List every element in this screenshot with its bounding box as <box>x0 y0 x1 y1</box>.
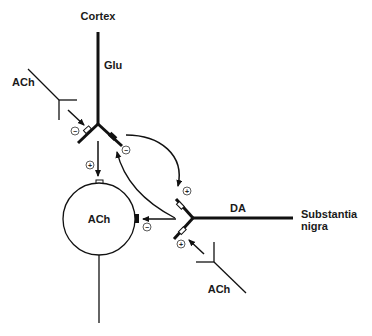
ach-cell-label: ACh <box>88 213 111 225</box>
cell-da-receptor <box>135 214 139 223</box>
ach-to-glu-arrow <box>68 110 84 125</box>
svg-text:−: − <box>145 224 149 231</box>
ach-top-label: ACh <box>12 76 35 88</box>
cortex-label: Cortex <box>81 10 117 22</box>
glu-to-da-arrow <box>126 135 179 186</box>
svg-text:−: − <box>73 128 77 135</box>
svg-text:+: + <box>185 188 189 195</box>
nigra-label: nigra <box>301 220 329 232</box>
ach-to-da-arrow <box>189 240 204 254</box>
substantia-label: Substantia <box>301 208 358 220</box>
da-label: DA <box>230 202 246 214</box>
neural-circuit-diagram: Cortex Glu ACh − − + ACh + − <box>0 0 372 336</box>
glu-terminal <box>78 124 122 146</box>
svg-text:−: − <box>124 147 128 154</box>
da-ach-receptor <box>178 227 186 235</box>
svg-text:+: + <box>179 241 183 248</box>
da-glu-receptor <box>176 201 184 209</box>
ach-bottom-label: ACh <box>208 283 231 295</box>
svg-text:+: + <box>88 162 92 169</box>
glu-label: Glu <box>104 59 122 71</box>
